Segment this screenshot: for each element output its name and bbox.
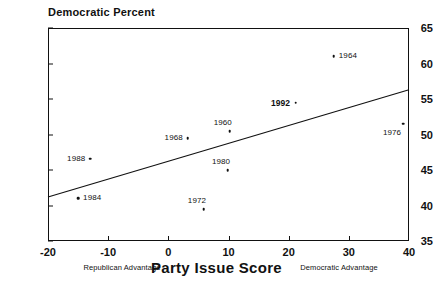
data-point-label: 1964 xyxy=(339,51,357,60)
y-tick-mark xyxy=(48,134,53,135)
y-tick-label: 45 xyxy=(399,164,433,176)
x-tick-label: -20 xyxy=(40,246,56,258)
data-point xyxy=(186,137,189,140)
x-tick-label: 40 xyxy=(403,246,415,258)
x-axis-title: Party Issue Score xyxy=(151,259,282,276)
y-tick-mark xyxy=(48,28,53,29)
data-point-label: 1980 xyxy=(212,157,230,166)
y-tick-label: 60 xyxy=(399,58,433,70)
data-point xyxy=(89,157,92,160)
y-tick-mark xyxy=(48,205,53,206)
y-tick-mark xyxy=(48,99,53,100)
data-point-label: 1960 xyxy=(214,118,232,127)
republican-advantage-note: Republican Advantage xyxy=(83,263,160,272)
x-tick-label: 30 xyxy=(343,246,355,258)
data-point-label: 1992 xyxy=(271,98,290,108)
data-point xyxy=(203,208,206,211)
y-tick-mark xyxy=(48,170,53,171)
data-point-label: 1976 xyxy=(383,128,401,137)
x-tick-mark xyxy=(289,236,290,241)
x-tick-mark xyxy=(349,236,350,241)
y-tick-label: 55 xyxy=(399,93,433,105)
democratic-advantage-note: Democratic Advantage xyxy=(300,263,377,272)
x-tick-mark xyxy=(168,236,169,241)
y-tick-label: 50 xyxy=(399,129,433,141)
y-axis-title: Democratic Percent xyxy=(48,6,155,18)
data-point-label: 1968 xyxy=(165,133,183,142)
x-tick-mark xyxy=(229,236,230,241)
y-tick-label: 65 xyxy=(399,22,433,34)
data-point xyxy=(227,169,230,172)
x-tick-label: 20 xyxy=(283,246,295,258)
scatter-chart: Democratic Percent 35404550556065 -20-10… xyxy=(0,0,433,291)
x-tick-label: -10 xyxy=(100,246,116,258)
data-point xyxy=(77,197,80,200)
data-point-label: 1984 xyxy=(83,193,101,202)
data-point-label: 1972 xyxy=(188,196,206,205)
y-tick-label: 40 xyxy=(399,200,433,212)
data-point xyxy=(332,55,335,58)
data-point xyxy=(295,101,298,104)
y-tick-mark xyxy=(48,241,53,242)
data-point xyxy=(228,130,231,133)
y-tick-mark xyxy=(48,63,53,64)
x-tick-label: 0 xyxy=(165,246,171,258)
data-point-label: 1988 xyxy=(67,154,85,163)
x-tick-mark xyxy=(108,236,109,241)
x-tick-label: 10 xyxy=(222,246,234,258)
data-point xyxy=(402,123,405,126)
